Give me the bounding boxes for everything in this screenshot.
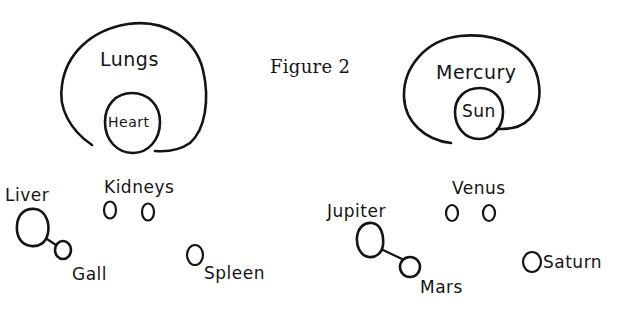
lungs-shape (61, 23, 206, 151)
kidney-right-shape (142, 204, 154, 221)
kidneys-label: Kidneys (104, 179, 174, 196)
jupiter-label: Jupiter (327, 203, 386, 220)
kidney-left-shape (104, 202, 116, 219)
lungs-label: Lungs (100, 50, 159, 69)
saturn-shape (523, 252, 541, 272)
diagram-canvas (0, 0, 618, 309)
liver-shape (17, 209, 49, 246)
jupiter-shape (357, 223, 383, 257)
liver-gall-connector (47, 239, 56, 245)
figure-title: Figure 2 (270, 58, 350, 76)
jupiter-mars-connector (383, 250, 402, 259)
mercury-label: Mercury (436, 63, 517, 82)
spleen-label: Spleen (204, 265, 265, 282)
mars-label: Mars (420, 279, 463, 296)
venus-label: Venus (452, 180, 506, 197)
heart-label: Heart (108, 115, 149, 129)
mars-shape (400, 257, 420, 277)
sun-label: Sun (462, 103, 496, 120)
venus-left-shape (446, 205, 458, 221)
liver-label: Liver (5, 187, 49, 204)
venus-right-shape (483, 205, 495, 221)
spleen-shape (187, 245, 203, 265)
gall-label: Gall (72, 266, 107, 283)
saturn-label: Saturn (543, 254, 602, 271)
gall-shape (55, 241, 71, 259)
